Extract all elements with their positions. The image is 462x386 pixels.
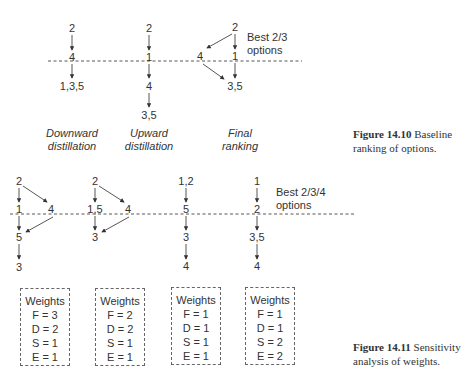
node: 2: [69, 22, 75, 34]
figure-caption-14-10: Figure 14.10 Baseline ranking of options…: [353, 127, 452, 155]
node: 5: [16, 231, 22, 243]
node: 1: [254, 175, 260, 187]
node: 4: [125, 203, 131, 215]
best-options-label: Best 2/3 options: [247, 31, 287, 57]
node: 1,5: [87, 203, 102, 215]
node: 2: [254, 203, 260, 215]
weights-box: Weights F = 3 D = 2 S = 1 E = 1: [20, 288, 70, 366]
best-options-label: Best 2/3/4 options: [276, 186, 326, 212]
node: 3,5: [227, 80, 242, 92]
weights-box: Weights F = 2 D = 2 S = 1 E = 1: [95, 288, 145, 366]
node: 2: [146, 22, 152, 34]
node: 1: [232, 50, 238, 62]
node: 4: [254, 260, 260, 272]
node: 4: [69, 51, 75, 63]
node: 1: [16, 203, 22, 215]
node: 3,5: [249, 231, 264, 243]
node: 4: [183, 260, 189, 272]
node: 3: [183, 231, 189, 243]
node: 1,2: [178, 175, 193, 187]
column-label-upward: Upward distillation: [125, 127, 173, 153]
node: 2: [16, 175, 22, 187]
node: 1: [146, 51, 152, 63]
node: 2: [92, 175, 98, 187]
column-label-downward: Downward distillation: [46, 127, 98, 153]
node: 3: [16, 261, 22, 273]
weights-box: Weights F = 1 D = 1 S = 1 E = 1: [171, 287, 221, 365]
node: 4: [146, 80, 152, 92]
node: 2: [232, 21, 238, 33]
column-label-final: Final ranking: [222, 127, 258, 153]
node: 3,5: [141, 109, 156, 121]
node: 4: [197, 50, 203, 62]
node: 1,3,5: [60, 80, 84, 92]
node: 4: [48, 203, 54, 215]
node: 5: [183, 203, 189, 215]
node: 3: [92, 231, 98, 243]
figure-caption-14-11: Figure 14.11 Sensitivity analysis of wei…: [353, 340, 461, 368]
weights-box: Weights F = 1 D = 1 S = 2 E = 2: [245, 287, 295, 365]
